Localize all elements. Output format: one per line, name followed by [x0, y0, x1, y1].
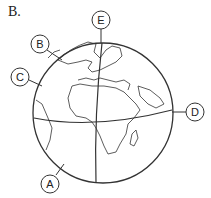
- callout-d: D: [172, 103, 204, 121]
- globe-diagram: E B C D A: [0, 0, 211, 198]
- callout-a-letter: A: [46, 178, 54, 190]
- callout-e: E: [92, 11, 110, 43]
- callout-c: C: [11, 68, 42, 86]
- callout-e-letter: E: [97, 14, 104, 26]
- callout-b: B: [31, 35, 62, 60]
- callout-c-letter: C: [16, 71, 24, 83]
- globe-outline: [33, 43, 173, 183]
- callout-a: A: [41, 164, 64, 193]
- callout-b-letter: B: [36, 38, 43, 50]
- callout-d-letter: D: [191, 106, 199, 118]
